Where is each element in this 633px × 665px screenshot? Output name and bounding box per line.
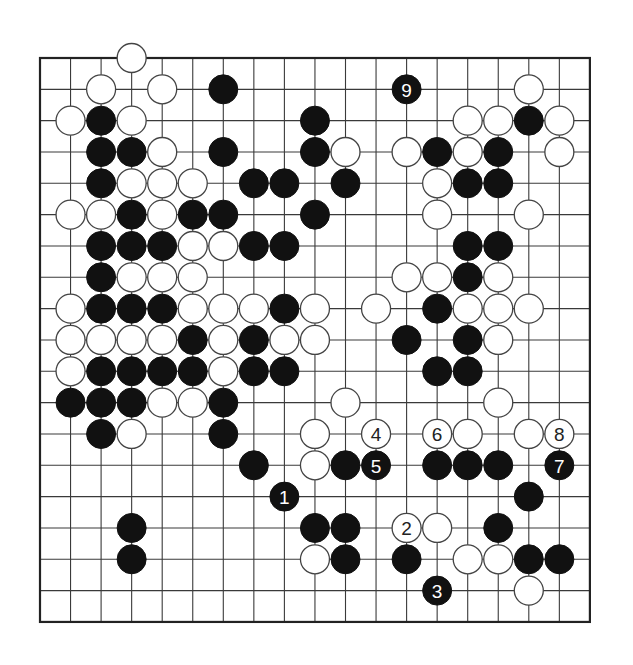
move-number-label: 7 — [554, 456, 565, 477]
black-stone-icon — [453, 263, 482, 292]
stone-white — [514, 75, 543, 104]
stone-white — [178, 388, 207, 417]
white-stone-icon — [148, 388, 177, 417]
black-stone-icon — [117, 200, 146, 229]
stone-black — [453, 263, 482, 292]
stone-black — [87, 169, 116, 198]
white-stone-icon — [545, 137, 574, 166]
stone-black — [423, 357, 452, 386]
black-stone-icon — [117, 294, 146, 323]
black-stone-icon — [423, 137, 452, 166]
black-stone-icon — [270, 169, 299, 198]
stone-white — [87, 75, 116, 104]
numbered-stone-5: 5 — [362, 451, 391, 480]
numbered-stone-2: 2 — [392, 513, 421, 542]
black-stone-icon — [87, 294, 116, 323]
stone-black — [87, 294, 116, 323]
stone-black — [148, 231, 177, 260]
stone-black — [484, 137, 513, 166]
white-stone-icon — [148, 325, 177, 354]
stone-black — [117, 545, 146, 574]
stone-black — [209, 200, 238, 229]
stone-white — [178, 231, 207, 260]
black-stone-icon — [514, 482, 543, 511]
numbered-stone-4: 4 — [362, 419, 391, 448]
stone-white — [453, 106, 482, 135]
stone-black — [331, 545, 360, 574]
stone-black — [453, 357, 482, 386]
stone-black — [514, 545, 543, 574]
black-stone-icon — [117, 137, 146, 166]
numbered-stone-7: 7 — [545, 451, 574, 480]
stone-white — [453, 137, 482, 166]
black-stone-icon — [56, 388, 85, 417]
white-stone-icon — [209, 231, 238, 260]
black-stone-icon — [87, 419, 116, 448]
white-stone-icon — [453, 137, 482, 166]
stone-white — [423, 169, 452, 198]
stone-white — [300, 294, 329, 323]
stone-black — [270, 294, 299, 323]
white-stone-icon — [56, 106, 85, 135]
stone-white — [423, 263, 452, 292]
stone-black — [392, 325, 421, 354]
black-stone-icon — [117, 545, 146, 574]
stone-white — [87, 200, 116, 229]
black-stone-icon — [87, 169, 116, 198]
black-stone-icon — [423, 357, 452, 386]
stone-white — [56, 325, 85, 354]
white-stone-icon — [270, 325, 299, 354]
black-stone-icon — [178, 325, 207, 354]
white-stone-icon — [453, 419, 482, 448]
stone-black — [300, 200, 329, 229]
stone-white — [117, 106, 146, 135]
white-stone-icon — [423, 200, 452, 229]
stone-black — [300, 106, 329, 135]
stone-white — [514, 294, 543, 323]
stone-white — [545, 106, 574, 135]
white-stone-icon — [209, 294, 238, 323]
black-stone-icon — [148, 357, 177, 386]
black-stone-icon — [392, 325, 421, 354]
stone-black — [209, 419, 238, 448]
black-stone-icon — [209, 200, 238, 229]
black-stone-icon — [87, 231, 116, 260]
stone-white — [56, 294, 85, 323]
black-stone-icon — [270, 231, 299, 260]
stone-black — [453, 325, 482, 354]
black-stone-icon — [239, 451, 268, 480]
white-stone-icon — [300, 294, 329, 323]
white-stone-icon — [514, 200, 543, 229]
black-stone-icon — [270, 294, 299, 323]
black-stone-icon — [484, 169, 513, 198]
stone-white — [514, 200, 543, 229]
black-stone-icon — [209, 137, 238, 166]
white-stone-icon — [423, 263, 452, 292]
white-stone-icon — [87, 325, 116, 354]
black-stone-icon — [453, 231, 482, 260]
stone-black — [117, 231, 146, 260]
white-stone-icon — [56, 357, 85, 386]
black-stone-icon — [209, 75, 238, 104]
stone-white — [148, 75, 177, 104]
black-stone-icon — [300, 200, 329, 229]
black-stone-icon — [239, 325, 268, 354]
white-stone-icon — [300, 325, 329, 354]
move-number-label: 9 — [401, 80, 412, 101]
stone-black — [331, 451, 360, 480]
white-stone-icon — [117, 325, 146, 354]
white-stone-icon — [117, 419, 146, 448]
move-number-label: 2 — [401, 518, 412, 539]
white-stone-icon — [362, 294, 391, 323]
black-stone-icon — [148, 294, 177, 323]
stone-white — [117, 263, 146, 292]
black-stone-icon — [331, 545, 360, 574]
stone-black — [209, 388, 238, 417]
white-stone-icon — [484, 294, 513, 323]
black-stone-icon — [87, 357, 116, 386]
black-stone-icon — [514, 545, 543, 574]
white-stone-icon — [117, 106, 146, 135]
stone-black — [545, 545, 574, 574]
stone-white — [392, 263, 421, 292]
black-stone-icon — [300, 137, 329, 166]
